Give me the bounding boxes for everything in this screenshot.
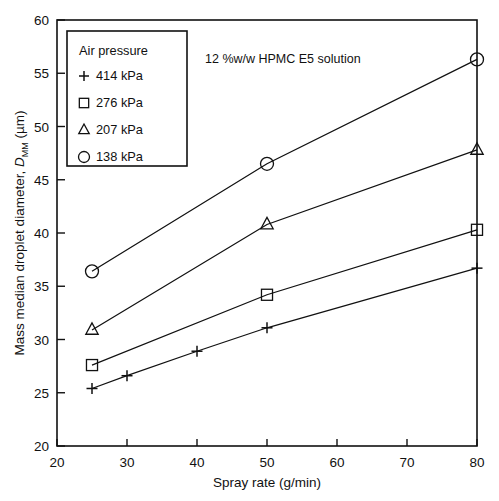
y-tick-label: 30 bbox=[34, 333, 49, 348]
marker-triangle bbox=[86, 323, 98, 334]
marker-plus bbox=[472, 263, 483, 274]
x-tick-label: 70 bbox=[399, 455, 414, 470]
y-axis-title-suffix: (µm) bbox=[12, 111, 27, 143]
x-tick-label: 30 bbox=[119, 455, 134, 470]
x-tick-label: 50 bbox=[259, 455, 274, 470]
y-tick-label: 50 bbox=[34, 120, 49, 135]
x-tick-label: 80 bbox=[469, 455, 484, 470]
marker-plus bbox=[192, 346, 203, 357]
y-axis-title-prefix: Mass median droplet diameter, bbox=[12, 167, 27, 355]
y-tick-label: 45 bbox=[34, 173, 49, 188]
legend-entry-138-kPa: 138 kPa bbox=[79, 149, 144, 164]
y-tick-label: 35 bbox=[34, 279, 49, 294]
series-line bbox=[92, 150, 477, 330]
legend-entry-276-kPa: 276 kPa bbox=[79, 95, 144, 110]
line-chart: 20304050607080 202530354045505560 12 %w/… bbox=[0, 0, 499, 501]
y-tick-label: 40 bbox=[34, 226, 49, 241]
legend-entries: 414 kPa276 kPa207 kPa138 kPa bbox=[79, 68, 144, 164]
marker-square bbox=[79, 98, 88, 107]
chart-annotation: 12 %w/w HPMC E5 solution bbox=[205, 52, 361, 66]
y-axis-ticks: 202530354045505560 bbox=[34, 13, 65, 454]
y-axis-title: Mass median droplet diameter, DMM (µm) bbox=[12, 111, 30, 356]
y-tick-label: 20 bbox=[34, 439, 49, 454]
y-axis-title-subscript: MM bbox=[20, 142, 30, 157]
marker-plus bbox=[79, 71, 89, 81]
marker-plus bbox=[122, 370, 133, 381]
legend-entry-label: 276 kPa bbox=[96, 95, 144, 110]
legend-title: Air pressure bbox=[79, 43, 148, 58]
y-axis-title-symbol: D bbox=[12, 157, 27, 167]
x-axis-title: Spray rate (g/min) bbox=[213, 475, 321, 490]
legend-entry-label: 138 kPa bbox=[96, 149, 144, 164]
marker-plus bbox=[262, 322, 273, 333]
chart-figure: 20304050607080 202530354045505560 12 %w/… bbox=[0, 0, 499, 501]
plot-frame bbox=[57, 20, 477, 446]
x-tick-label: 40 bbox=[189, 455, 204, 470]
series-line bbox=[92, 230, 477, 365]
x-axis-ticks: 20304050607080 bbox=[49, 439, 484, 470]
legend: Air pressure 414 kPa276 kPa207 kPa138 kP… bbox=[67, 31, 187, 166]
marker-circle bbox=[79, 152, 90, 163]
x-tick-label: 60 bbox=[329, 455, 344, 470]
y-tick-label: 55 bbox=[34, 66, 49, 81]
data-series-layer bbox=[86, 53, 484, 394]
y-tick-label: 60 bbox=[34, 13, 49, 28]
series-line bbox=[92, 268, 477, 388]
legend-entry-label: 414 kPa bbox=[96, 68, 144, 83]
y-tick-label: 25 bbox=[34, 386, 49, 401]
series-414-kpa bbox=[87, 263, 483, 394]
legend-entry-414-kPa: 414 kPa bbox=[79, 68, 144, 83]
legend-entry-207-kPa: 207 kPa bbox=[79, 122, 144, 137]
marker-triangle bbox=[79, 124, 89, 134]
legend-entry-label: 207 kPa bbox=[96, 122, 144, 137]
marker-plus bbox=[87, 383, 98, 394]
x-tick-label: 20 bbox=[49, 455, 64, 470]
